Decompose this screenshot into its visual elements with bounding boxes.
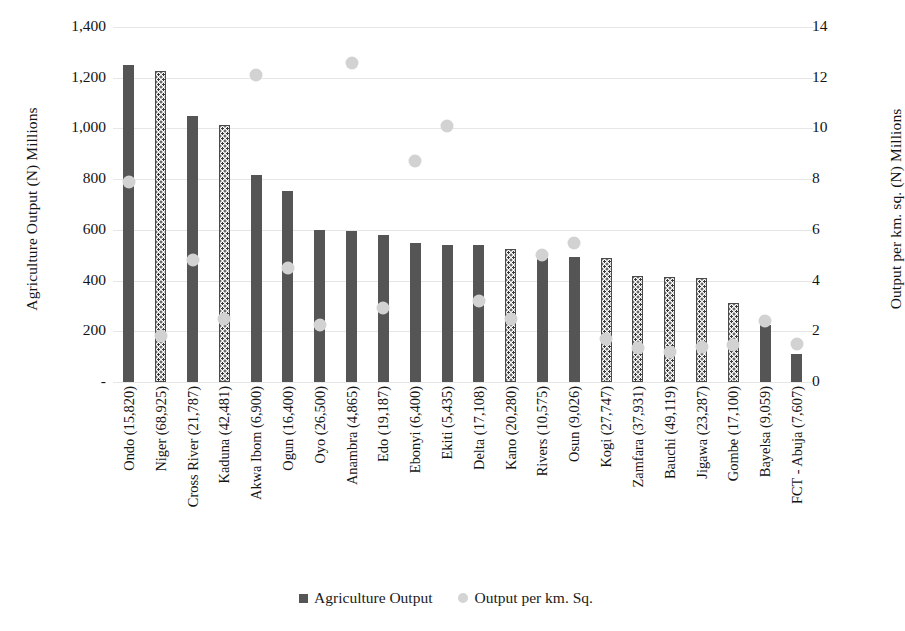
x-category-slot: Niger (68,925) (145, 386, 177, 581)
x-category-slot: Bayelsa (9,059) (749, 386, 781, 581)
bar-agriculture-output[interactable] (442, 245, 453, 382)
bar-agriculture-output[interactable] (791, 354, 802, 382)
x-category-slot: Zamfara (37,931) (622, 386, 654, 581)
bar-agriculture-output[interactable] (664, 277, 675, 382)
x-tick-label: Kano (20,280) (502, 386, 519, 470)
x-category-slot: Oyo (26,500) (304, 386, 336, 581)
marker-output-per-km-sq[interactable] (536, 249, 549, 262)
y-tick-label-secondary: 6 (812, 220, 820, 238)
y-axis-title-secondary: Output per km. sq. (N) Millions (887, 59, 905, 359)
y-axis-ticks-primary: 1,4001,2001,000800600400200- (34, 0, 106, 631)
x-tick-label: Gombe (17,100) (725, 386, 742, 481)
marker-output-per-km-sq[interactable] (790, 337, 803, 350)
marker-output-per-km-sq[interactable] (759, 315, 772, 328)
x-tick-label: Bauchi (49,119) (661, 386, 678, 479)
x-tick-label: Cross River (21,787) (184, 386, 201, 507)
x-category-slot: Jigawa (23,287) (686, 386, 718, 581)
bar-agriculture-output[interactable] (410, 243, 421, 382)
marker-output-per-km-sq[interactable] (154, 330, 167, 343)
bar-agriculture-output[interactable] (696, 278, 707, 382)
x-category-slot: Kano (20,280) (495, 386, 527, 581)
marker-output-per-km-sq[interactable] (250, 69, 263, 82)
marker-output-per-km-sq[interactable] (727, 339, 740, 352)
x-category-slot: Akwa Ibom (6,900) (240, 386, 272, 581)
bar-slot (272, 27, 304, 382)
bar-agriculture-output[interactable] (219, 125, 230, 382)
marker-output-per-km-sq[interactable] (186, 254, 199, 267)
x-tick-label: Edo (19,187) (375, 386, 392, 462)
bar-agriculture-output[interactable] (569, 257, 580, 382)
marker-output-per-km-sq[interactable] (631, 341, 644, 354)
bar-agriculture-output[interactable] (760, 325, 771, 382)
bar-agriculture-output[interactable] (282, 191, 293, 382)
x-category-slot: Ekiti (5,435) (431, 386, 463, 581)
y-tick-label-secondary: 14 (812, 17, 828, 35)
x-category-slot: Kogi (27,747) (590, 386, 622, 581)
marker-output-per-km-sq[interactable] (472, 294, 485, 307)
bar-slot (145, 27, 177, 382)
x-tick-label: Zamfara (37,931) (629, 386, 646, 488)
x-category-slot: Osun (9,026) (558, 386, 590, 581)
bar-agriculture-output[interactable] (346, 231, 357, 382)
bar-agriculture-output[interactable] (314, 230, 325, 382)
gridline (113, 382, 813, 383)
bar-agriculture-output[interactable] (251, 175, 262, 382)
marker-output-per-km-sq[interactable] (281, 261, 294, 274)
bar-slot (304, 27, 336, 382)
marker-output-per-km-sq[interactable] (409, 155, 422, 168)
x-tick-label: Ondo (15,820) (120, 386, 137, 471)
bar-agriculture-output[interactable] (187, 116, 198, 382)
x-tick-label: Rivers (10,575) (534, 386, 551, 476)
y-tick-label-secondary: 12 (812, 68, 828, 86)
bar-agriculture-output[interactable] (473, 245, 484, 382)
y-tick-label-secondary: 4 (812, 271, 820, 289)
bar-slot (686, 27, 718, 382)
bar-slot (527, 27, 559, 382)
x-tick-label: Bayelsa (9,059) (757, 386, 774, 477)
marker-output-per-km-sq[interactable] (377, 302, 390, 315)
bar-slot (495, 27, 527, 382)
x-tick-label: Ogun (16,400) (279, 386, 296, 471)
bar-slot (113, 27, 145, 382)
marker-output-per-km-sq[interactable] (600, 332, 613, 345)
x-axis-category-labels: Ondo (15,820)Niger (68,925)Cross River (… (113, 386, 813, 581)
x-tick-label: Jigawa (23,287) (693, 386, 710, 479)
y-tick-label-primary: 1,400 (34, 17, 106, 35)
marker-output-per-km-sq[interactable] (345, 56, 358, 69)
x-tick-label: Anambra (4,865) (343, 386, 360, 485)
y-tick-label-secondary: 10 (812, 118, 828, 136)
bar-slot (240, 27, 272, 382)
marker-output-per-km-sq[interactable] (695, 340, 708, 353)
marker-output-per-km-sq[interactable] (663, 345, 676, 358)
x-category-slot: Ogun (16,400) (272, 386, 304, 581)
marker-output-per-km-sq[interactable] (313, 318, 326, 331)
bar-agriculture-output[interactable] (123, 65, 134, 382)
legend-square-icon (299, 594, 308, 603)
x-tick-label: Niger (68,925) (152, 386, 169, 472)
y-tick-label-primary: 600 (34, 220, 106, 238)
marker-output-per-km-sq[interactable] (568, 236, 581, 249)
x-category-slot: Edo (19,187) (368, 386, 400, 581)
bar-slot (463, 27, 495, 382)
marker-output-per-km-sq[interactable] (504, 312, 517, 325)
legend-entry[interactable]: Output per km. Sq. (458, 589, 592, 607)
marker-output-per-km-sq[interactable] (218, 312, 231, 325)
bar-slot (717, 27, 749, 382)
marker-output-per-km-sq[interactable] (441, 119, 454, 132)
bar-agriculture-output[interactable] (601, 258, 612, 382)
legend-label: Output per km. Sq. (474, 589, 592, 607)
x-category-slot: Kaduna (42,481) (208, 386, 240, 581)
marker-output-per-km-sq[interactable] (122, 175, 135, 188)
bar-slot (749, 27, 781, 382)
y-tick-label-primary: 1,000 (34, 118, 106, 136)
bar-slot (368, 27, 400, 382)
legend-entry[interactable]: Agriculture Output (299, 589, 432, 607)
x-tick-label: Osun (9,026) (566, 386, 583, 462)
bar-agriculture-output[interactable] (632, 276, 643, 382)
x-category-slot: Rivers (10,575) (527, 386, 559, 581)
bar-slot (781, 27, 813, 382)
x-category-slot: Ondo (15,820) (113, 386, 145, 581)
bar-agriculture-output[interactable] (537, 258, 548, 382)
plot-area (113, 27, 813, 382)
